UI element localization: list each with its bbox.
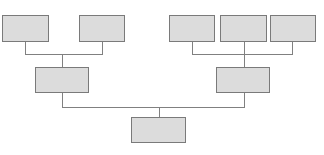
connector-n5-down [292, 42, 293, 54]
node-top-1 [2, 15, 49, 42]
node-top-4 [220, 15, 267, 42]
node-top-5 [270, 15, 316, 42]
connector-n2-down [102, 42, 103, 54]
node-top-2 [79, 15, 125, 42]
connector-right-bar [192, 54, 293, 55]
node-top-3 [169, 15, 215, 42]
connector-bottom-bar [62, 107, 245, 108]
connector-n7-down [244, 93, 245, 107]
node-mid-right [216, 67, 270, 93]
node-root [131, 117, 186, 143]
connector-n1-down [25, 42, 26, 54]
connector-left-bar [25, 54, 103, 55]
node-mid-left [35, 67, 89, 93]
connector-bottom-to-n8 [159, 107, 160, 117]
connector-left-to-n6 [62, 54, 63, 67]
connector-n6-down [62, 93, 63, 107]
tree-diagram [0, 0, 324, 155]
connector-n3-down [192, 42, 193, 54]
